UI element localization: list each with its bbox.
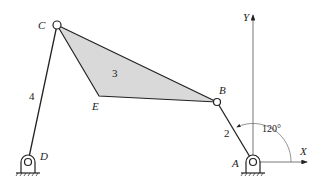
angle-label: 120°: [262, 123, 281, 134]
ground-pivot-d: [16, 155, 40, 176]
joint-c: [53, 21, 61, 29]
point-a-label: A: [231, 157, 239, 169]
point-d-label: D: [39, 150, 48, 162]
y-axis-label: Y: [243, 11, 251, 23]
point-e-label: E: [91, 100, 99, 112]
x-axis-label: X: [299, 145, 308, 157]
point-c-label: C: [38, 19, 46, 31]
link-3-body: [57, 25, 217, 102]
mechanism-diagram: Y X 120° 3 4 2 C B E D A: [0, 0, 323, 191]
link-3-label: 3: [112, 67, 118, 79]
joint-b: [214, 99, 221, 106]
ground-pivot-a: [241, 155, 265, 176]
point-b-label: B: [219, 84, 226, 96]
link-2-label: 2: [224, 127, 230, 139]
link-4-label: 4: [29, 90, 35, 102]
link-2: [217, 102, 253, 162]
